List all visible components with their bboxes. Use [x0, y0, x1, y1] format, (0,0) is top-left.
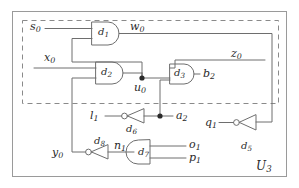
signal-label-n1: n1 — [114, 140, 126, 153]
signal-label-o1: o1 — [189, 139, 201, 152]
circuit-schematic-svg — [0, 0, 299, 188]
dashed-subcircuit-boundary — [23, 21, 279, 104]
gate-d6-body — [128, 109, 145, 123]
signal-label-a2: a2 — [176, 110, 188, 123]
signal-label-s0: s0 — [30, 21, 41, 34]
gate-label-d7: d7 — [138, 147, 149, 158]
junction-a2 — [157, 113, 162, 118]
signal-label-w0: w0 — [130, 21, 144, 34]
gate-label-d3: d3 — [174, 68, 185, 79]
gate-label-d2: d2 — [101, 67, 112, 78]
signal-label-z0: z0 — [231, 48, 242, 61]
gate-label-d1: d1 — [98, 27, 109, 38]
gate-d5-bubble — [234, 120, 240, 126]
signal-label-l1: l1 — [90, 110, 99, 123]
gate-label-d6: d6 — [126, 124, 137, 135]
gate-d5-body — [240, 115, 257, 130]
gate-d6-bubble — [122, 113, 128, 119]
signal-label-x0: x0 — [44, 52, 55, 65]
circuit-diagram-canvas: s0 w0 z0 x0 u0 b2 l1 a2 q1 y0 n1 o1 p1 d… — [0, 0, 299, 188]
junction-u0 — [139, 75, 144, 80]
gate-label-d5: d5 — [241, 141, 252, 152]
signal-label-p1: p1 — [189, 152, 201, 165]
signal-label-q1: q1 — [205, 117, 217, 130]
signal-label-y0: y0 — [52, 147, 63, 160]
wire-a2-to-d3-bottom — [160, 80, 170, 116]
block-label-u3: U3 — [256, 160, 272, 174]
gate-label-d8: d8 — [94, 136, 105, 147]
signal-label-u0: u0 — [134, 82, 146, 95]
signal-label-b2: b2 — [203, 68, 215, 81]
gate-d8-bubble — [86, 149, 92, 155]
